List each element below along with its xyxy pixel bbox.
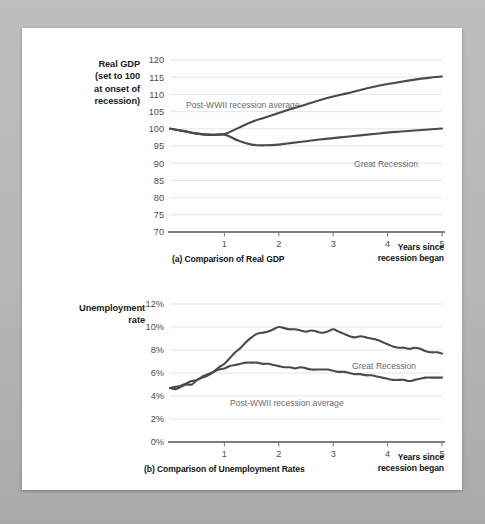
ytick-label-80: 80 — [154, 193, 164, 203]
ytick-label-75: 75 — [154, 210, 164, 220]
ytick-label-110: 110 — [149, 90, 164, 100]
ytick-label-6%: 6% — [151, 368, 164, 378]
xtick-label-1: 1 — [222, 449, 227, 459]
ytick-label-120: 120 — [149, 55, 164, 65]
series-label-post-wwii-recession-average-b: Post-WWII recession average — [230, 398, 344, 408]
chart-a-caption: (a) Comparison of Real GDP — [172, 254, 284, 264]
chart-a-xaxis-label: Years sincerecession began — [322, 242, 444, 263]
ytick-label-90: 90 — [154, 159, 164, 169]
ytick-label-4%: 4% — [151, 391, 164, 401]
chart-b-caption: (b) Comparison of Unemployment Rates — [144, 464, 305, 474]
ytick-label-115: 115 — [149, 73, 164, 83]
xtick-label-2: 2 — [276, 239, 281, 249]
series-line-great-recession — [170, 128, 442, 145]
ytick-label-10%: 10% — [146, 322, 164, 332]
xtick-label-2: 2 — [276, 449, 281, 459]
chart-a-xlabel-line-2: recession began — [322, 253, 444, 264]
figure-panel: Real GDP(set to 100at onset ofrecession)… — [22, 28, 462, 490]
ytick-label-85: 85 — [154, 176, 164, 186]
xtick-label-1: 1 — [222, 239, 227, 249]
ytick-label-100: 100 — [149, 124, 164, 134]
chart-a-xlabel-line-1: Years since — [322, 242, 444, 253]
chart-b-xaxis-label: Years sincerecession began — [322, 452, 444, 473]
chart-b-xlabel-line-1: Years since — [322, 452, 444, 463]
ytick-label-0%: 0% — [151, 437, 164, 447]
ytick-label-2%: 2% — [151, 414, 164, 424]
chart-unemployment: Unemploymentrate 0%2%4%6%8%10%12%12345Gr… — [22, 278, 462, 490]
series-label-great-recession-a: Great Recession — [354, 159, 418, 169]
ytick-label-105: 105 — [149, 107, 164, 117]
chart-b-xlabel-line-2: recession began — [322, 463, 444, 474]
series-label-great-recession-b: Great Recession — [352, 361, 416, 371]
ytick-label-70: 70 — [154, 227, 164, 237]
ytick-label-8%: 8% — [151, 345, 164, 355]
ytick-label-95: 95 — [154, 141, 164, 151]
chart-real-gdp: Real GDP(set to 100at onset ofrecession)… — [22, 34, 462, 284]
ytick-label-12%: 12% — [146, 299, 164, 309]
series-label-post-wwii-recession-average-a: Post-WWII recession average — [186, 100, 300, 110]
